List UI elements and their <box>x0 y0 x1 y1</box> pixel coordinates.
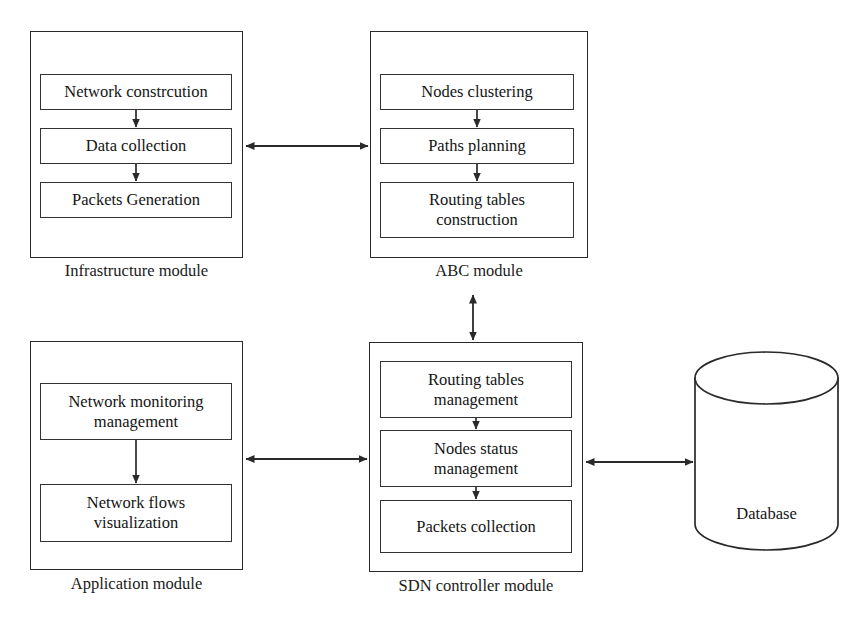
step-packets-collection: Packets collection <box>380 500 572 553</box>
module-label-application: Application module <box>30 574 243 593</box>
step-data-collection: Data collection <box>40 128 232 164</box>
step-line: Nodes clustering <box>421 82 532 102</box>
step-network-monitoring-management: Network monitoring management <box>40 383 232 440</box>
step-line: construction <box>436 210 518 230</box>
module-label-infrastructure: Infrastructure module <box>30 261 243 280</box>
module-label-text: Application module <box>71 574 203 593</box>
step-line: Network flows <box>87 493 186 513</box>
step-line: management <box>434 459 518 479</box>
step-line: Network constrcution <box>64 82 207 102</box>
diagram-canvas: Network constrcution Data collection Pac… <box>0 0 858 623</box>
step-line: Routing tables <box>428 370 524 390</box>
step-line: Routing tables <box>429 190 525 210</box>
database-label-text: Database <box>736 504 796 523</box>
step-nodes-status-management: Nodes status management <box>380 430 572 487</box>
step-routing-tables-management: Routing tables management <box>380 361 572 418</box>
step-paths-planning: Paths planning <box>380 128 574 164</box>
step-packets-generation: Packets Generation <box>40 182 232 218</box>
step-line: Paths planning <box>428 136 526 156</box>
step-line: Nodes status <box>434 439 518 459</box>
step-line: visualization <box>94 513 178 533</box>
module-label-text: ABC module <box>435 261 523 280</box>
step-line: management <box>94 412 178 432</box>
step-routing-tables-construction: Routing tables construction <box>380 182 574 238</box>
step-line: Packets Generation <box>72 190 200 210</box>
database-label: Database <box>695 504 838 524</box>
step-line: Data collection <box>86 136 186 156</box>
module-label-sdn-controller: SDN controller module <box>369 576 583 595</box>
step-line: management <box>434 390 518 410</box>
module-label-abc: ABC module <box>370 261 588 280</box>
step-nodes-clustering: Nodes clustering <box>380 74 574 110</box>
step-network-construction: Network constrcution <box>40 74 232 110</box>
module-label-text: Infrastructure module <box>65 261 208 280</box>
step-network-flows-visualization: Network flows visualization <box>40 484 232 542</box>
step-line: Packets collection <box>416 517 536 537</box>
step-line: Network monitoring <box>68 392 203 412</box>
module-label-text: SDN controller module <box>399 576 554 595</box>
